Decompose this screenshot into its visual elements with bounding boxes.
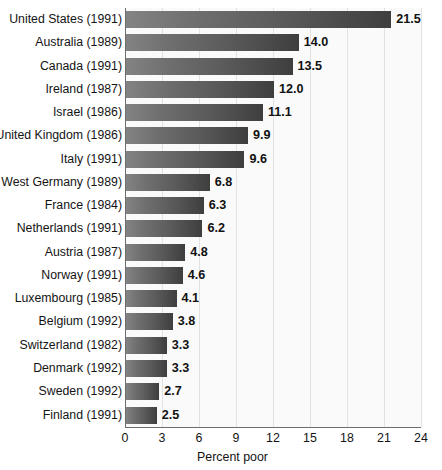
bar-row: Switzerland (1982)3.3 xyxy=(0,334,442,357)
bar-value-label: 4.8 xyxy=(190,241,208,264)
bar-row: United States (1991)21.5 xyxy=(0,8,442,31)
category-label: Canada (1991) xyxy=(40,55,122,78)
category-label: Italy (1991) xyxy=(60,148,122,171)
bar-row: Finland (1991)2.5 xyxy=(0,404,442,427)
bar[interactable] xyxy=(126,34,299,51)
bar-row: Denmark (1992)3.3 xyxy=(0,357,442,380)
bar[interactable] xyxy=(126,337,167,354)
category-label: Switzerland (1982) xyxy=(19,334,122,357)
category-label: United States (1991) xyxy=(9,8,122,31)
bar-row: United Kingdom (1986)9.9 xyxy=(0,124,442,147)
bar[interactable] xyxy=(126,151,244,168)
category-label: Netherlands (1991) xyxy=(17,217,122,240)
bar[interactable] xyxy=(126,383,159,400)
bar[interactable] xyxy=(126,244,185,261)
x-axis-line xyxy=(125,427,421,428)
x-tick-label-24: 24 xyxy=(401,431,441,445)
bar[interactable] xyxy=(126,174,210,191)
category-label: Australia (1989) xyxy=(35,31,122,54)
x-axis-title-text: Percent poor xyxy=(197,450,268,464)
bar-value-label: 9.9 xyxy=(253,124,271,147)
bar-row: Austria (1987)4.8 xyxy=(0,241,442,264)
bar-value-label: 2.7 xyxy=(164,380,182,403)
bar-value-label: 3.3 xyxy=(172,357,190,380)
bar-row: Canada (1991)13.5 xyxy=(0,55,442,78)
x-tick-label-21: 21 xyxy=(364,431,404,445)
category-label: Sweden (1992) xyxy=(39,380,122,403)
category-label: Finland (1991) xyxy=(43,404,122,427)
bar-chart: United States (1991)21.5Australia (1989)… xyxy=(0,0,442,470)
bar[interactable] xyxy=(126,127,248,144)
bar-row: Ireland (1987)12.0 xyxy=(0,78,442,101)
bar-value-label: 14.0 xyxy=(304,31,329,54)
category-label: Denmark (1992) xyxy=(33,357,122,380)
x-tick-label-15: 15 xyxy=(290,431,330,445)
x-axis-ticks: 03691215182124 xyxy=(0,431,442,451)
x-tick-label-18: 18 xyxy=(327,431,367,445)
bar-value-label: 2.5 xyxy=(162,404,180,427)
category-label: Luxembourg (1985) xyxy=(15,287,122,310)
bar-row: Belgium (1992)3.8 xyxy=(0,310,442,333)
x-tick-label-12: 12 xyxy=(253,431,293,445)
bar[interactable] xyxy=(126,360,167,377)
bar-value-label: 4.1 xyxy=(182,287,200,310)
bar-row: Australia (1989)14.0 xyxy=(0,31,442,54)
category-label: France (1984) xyxy=(45,194,122,217)
bar-value-label: 3.8 xyxy=(178,310,196,333)
bar-row: France (1984)6.3 xyxy=(0,194,442,217)
bar-value-label: 11.1 xyxy=(268,101,292,124)
category-label: Austria (1987) xyxy=(45,241,122,264)
bar-value-label: 6.3 xyxy=(209,194,227,217)
category-label: Israel (1986) xyxy=(53,101,122,124)
bar-row: Sweden (1992)2.7 xyxy=(0,380,442,403)
bar-value-label: 12.0 xyxy=(279,78,304,101)
bar-value-label: 4.6 xyxy=(188,264,206,287)
x-axis-title: Percent poor xyxy=(0,450,442,464)
bar-row: Luxembourg (1985)4.1 xyxy=(0,287,442,310)
bar[interactable] xyxy=(126,81,274,98)
category-label: Norway (1991) xyxy=(41,264,122,287)
category-label: West Germany (1989) xyxy=(1,171,122,194)
bar-row: Israel (1986)11.1 xyxy=(0,101,442,124)
bar[interactable] xyxy=(126,104,263,121)
bar[interactable] xyxy=(126,267,183,284)
bar[interactable] xyxy=(126,220,202,237)
bar[interactable] xyxy=(126,197,204,214)
category-label: Belgium (1992) xyxy=(39,310,122,333)
bar-value-label: 6.8 xyxy=(215,171,233,194)
bar-row: Italy (1991)9.6 xyxy=(0,148,442,171)
bar-value-label: 6.2 xyxy=(207,217,225,240)
bar[interactable] xyxy=(126,407,157,424)
bar-value-label: 9.6 xyxy=(249,148,267,171)
bar-row: Netherlands (1991)6.2 xyxy=(0,217,442,240)
bar[interactable] xyxy=(126,11,391,28)
bar-value-label: 3.3 xyxy=(172,334,190,357)
bar-rows: United States (1991)21.5Australia (1989)… xyxy=(0,8,442,427)
x-tick-label-6: 6 xyxy=(179,431,219,445)
x-tick-label-0: 0 xyxy=(105,431,145,445)
bar[interactable] xyxy=(126,58,293,75)
bar[interactable] xyxy=(126,313,173,330)
bar[interactable] xyxy=(126,290,177,307)
bar-value-label: 21.5 xyxy=(396,8,421,31)
x-tick-label-3: 3 xyxy=(142,431,182,445)
bar-row: West Germany (1989)6.8 xyxy=(0,171,442,194)
bar-row: Norway (1991)4.6 xyxy=(0,264,442,287)
bar-value-label: 13.5 xyxy=(298,55,323,78)
category-label: United Kingdom (1986) xyxy=(0,124,122,147)
x-tick-label-9: 9 xyxy=(216,431,256,445)
category-label: Ireland (1987) xyxy=(45,78,122,101)
